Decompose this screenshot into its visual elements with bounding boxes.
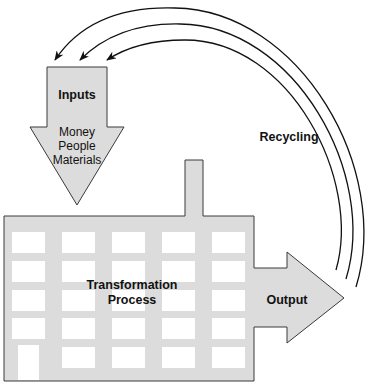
inputs-title: Inputs <box>47 88 107 102</box>
diagram-canvas: Inputs Money People Materials Transforma… <box>0 0 375 389</box>
input-item-money: Money <box>37 125 117 139</box>
diagram-graphics <box>0 0 375 389</box>
input-item-people: People <box>37 139 117 153</box>
building-door <box>18 345 39 380</box>
process-label-line2: Process <box>82 293 182 307</box>
recycling-label: Recycling <box>254 130 324 144</box>
input-item-materials: Materials <box>37 153 117 167</box>
output-label: Output <box>262 293 312 307</box>
process-label-line1: Transformation <box>82 278 182 292</box>
